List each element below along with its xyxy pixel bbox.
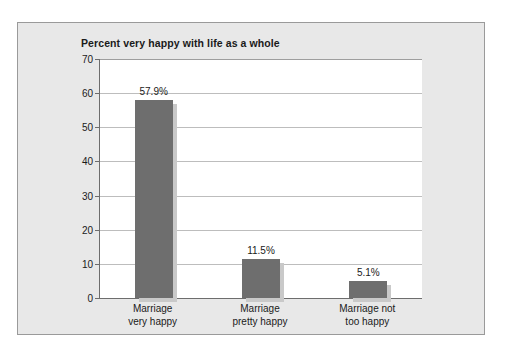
x-axis-category-label: Marriagepretty happy	[232, 303, 287, 328]
chart-title: Percent very happy with life as a whole	[81, 37, 280, 49]
gridline	[100, 59, 422, 60]
y-axis-tick	[95, 127, 99, 128]
y-axis-tick-label: 30	[82, 190, 93, 201]
x-axis-category-label-line: pretty happy	[232, 316, 287, 329]
y-axis-tick-label: 10	[82, 258, 93, 269]
y-axis-tick-label: 20	[82, 224, 93, 235]
bar-group[interactable]: 5.1%	[349, 281, 391, 298]
x-axis-category-label-line: too happy	[339, 316, 395, 329]
bar[interactable]	[349, 281, 387, 298]
y-axis-tick	[95, 161, 99, 162]
bar[interactable]	[135, 100, 173, 298]
bar[interactable]	[242, 259, 280, 298]
y-axis-tick-label: 40	[82, 156, 93, 167]
x-axis-category-label-line: Marriage not	[339, 303, 395, 316]
chart-figure-panel: Percent very happy with life as a whole …	[17, 22, 485, 335]
y-axis-tick	[95, 264, 99, 265]
bar-value-label: 11.5%	[247, 245, 275, 256]
bar-value-label: 5.1%	[357, 267, 380, 278]
y-axis-tick	[95, 230, 99, 231]
x-axis-category-label-line: Marriage	[232, 303, 287, 316]
y-axis-tick-label: 0	[87, 293, 93, 304]
x-axis-category-label: Marriagevery happy	[128, 303, 177, 328]
bar-value-label: 57.9%	[139, 86, 167, 97]
x-axis-category-label-line: Marriage	[128, 303, 177, 316]
plot-area: 57.9%11.5%5.1%	[99, 59, 422, 299]
bar-group[interactable]: 57.9%	[135, 100, 177, 298]
y-axis-tick	[95, 196, 99, 197]
y-axis-tick-label: 70	[82, 54, 93, 65]
y-axis-tick-label: 60	[82, 88, 93, 99]
x-axis-category-label-line: very happy	[128, 316, 177, 329]
y-axis-tick-labels: 010203040506070	[73, 59, 93, 298]
y-axis-tick-label: 50	[82, 122, 93, 133]
bar-group[interactable]: 11.5%	[242, 259, 284, 298]
y-axis-tick	[95, 93, 99, 94]
y-axis-tick	[95, 59, 99, 60]
x-axis-category-label: Marriage nottoo happy	[339, 303, 395, 328]
y-axis-tick	[95, 298, 99, 299]
